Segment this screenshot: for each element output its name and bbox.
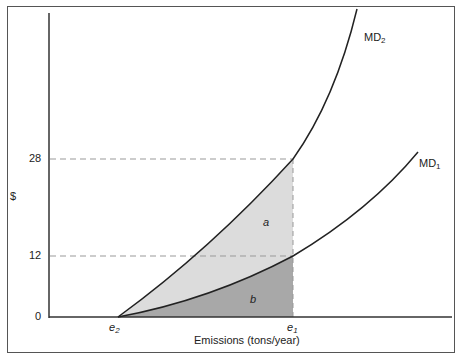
y-tick-28: 28 <box>29 152 41 164</box>
x-tick-e2: e2 <box>109 321 120 335</box>
area-b-label: b <box>250 293 256 305</box>
md2-label: MD2 <box>364 31 386 45</box>
x-tick-e1: e1 <box>287 321 298 335</box>
y-tick-12: 12 <box>29 249 41 261</box>
area-a-label: a <box>263 216 269 228</box>
md1-label: MD1 <box>419 157 441 171</box>
y-tick-0: 0 <box>35 310 41 322</box>
x-axis-label: Emissions (tons/year) <box>194 334 300 346</box>
diagram-canvas <box>0 0 461 359</box>
y-axis-label: $ <box>10 190 16 202</box>
